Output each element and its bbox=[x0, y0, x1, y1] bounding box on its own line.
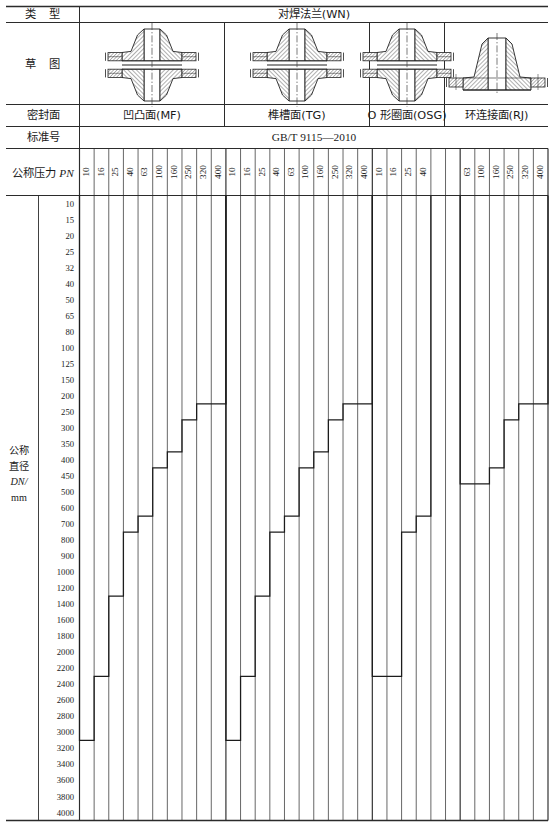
sketch-osg bbox=[361, 23, 454, 107]
sketch-mf bbox=[106, 23, 199, 107]
sketch-tg bbox=[251, 23, 344, 107]
sketch-rj bbox=[447, 33, 548, 95]
flange-specification-table: 类 型 草 图 密封面 标准号 公称压力PN 公称 直径 DN/ mm 对焊法兰… bbox=[0, 0, 554, 827]
table-grid-and-sketches bbox=[0, 0, 554, 827]
